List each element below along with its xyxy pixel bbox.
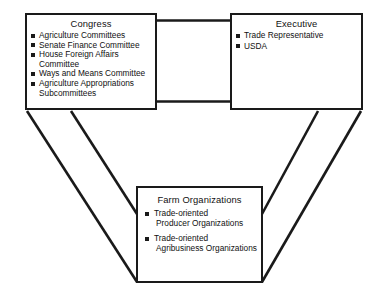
bullet-square-icon [145, 212, 149, 216]
list-item-line: Producer Organizations [154, 219, 258, 229]
bullet-square-icon [31, 53, 35, 57]
node-list-congress: Agriculture Committees Senate Finance Co… [27, 31, 155, 98]
bullet-square-icon [236, 34, 240, 38]
list-item: House Foreign Affairs Committee [31, 50, 152, 69]
node-box-executive[interactable]: Executive Trade Representative USDA [230, 13, 363, 110]
node-title-executive: Executive [232, 18, 361, 29]
list-item: Trade-oriented Agribusiness Organization… [145, 234, 258, 253]
node-list-farm-organizations: Trade-oriented Producer Organizations Tr… [138, 209, 261, 253]
list-item: USDA [236, 42, 358, 52]
list-item: Trade-oriented Producer Organizations [145, 209, 258, 228]
list-item-line: Agribusiness Organizations [154, 244, 258, 254]
node-box-congress[interactable]: Congress Agriculture Committees Senate F… [25, 13, 157, 110]
list-item: Trade Representative [236, 31, 358, 41]
node-list-executive: Trade Representative USDA [232, 31, 361, 51]
connector-congress-farm-inner [71, 111, 137, 214]
list-item: Agriculture Appropriations Subcommittees [31, 79, 152, 98]
bullet-square-icon [31, 72, 35, 76]
bullet-square-icon [236, 44, 240, 48]
bullet-square-icon [31, 43, 35, 47]
list-item-line: USDA [244, 42, 358, 52]
diagram-canvas: Congress Agriculture Committees Senate F… [0, 0, 381, 296]
node-title-congress: Congress [27, 18, 155, 29]
connector-congress-farm-outer [27, 111, 137, 282]
list-item-line: Trade Representative [244, 31, 358, 41]
bullet-square-icon [145, 237, 149, 241]
node-title-farm-organizations: Farm Organizations [138, 194, 261, 205]
node-box-farm-organizations[interactable]: Farm Organizations Trade-oriented Produc… [136, 186, 263, 283]
bullet-square-icon [31, 82, 35, 86]
list-item-line: Subcommittees [39, 89, 152, 99]
connector-executive-farm-outer [262, 111, 361, 282]
bullet-square-icon [31, 34, 35, 38]
